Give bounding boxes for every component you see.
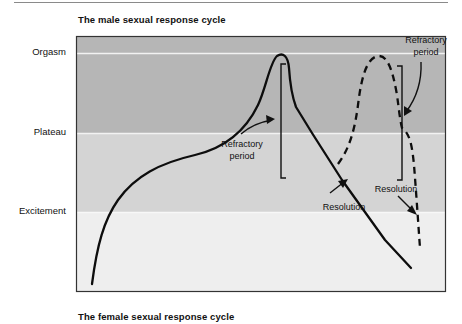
refractory-label-1-line2: period xyxy=(212,150,272,162)
orgasm-band xyxy=(76,36,446,133)
y-label-excitement: Excitement xyxy=(6,205,66,216)
refractory-label-1-line1: Refractory xyxy=(212,138,272,150)
excitement-band xyxy=(76,212,446,292)
y-label-orgasm: Orgasm xyxy=(6,46,66,57)
y-label-plateau: Plateau xyxy=(6,126,66,137)
refractory-label-2-line2: period xyxy=(395,46,457,58)
response-cycle-diagram xyxy=(0,0,462,324)
female-cycle-title: The female sexual response cycle xyxy=(78,311,234,322)
resolution-label-1: Resolution xyxy=(314,201,374,213)
refractory-label-2: Refractory period xyxy=(395,34,457,58)
refractory-label-1: Refractory period xyxy=(212,138,272,162)
refractory-label-2-line1: Refractory xyxy=(395,34,457,46)
resolution-label-2: Resolution xyxy=(366,183,426,195)
